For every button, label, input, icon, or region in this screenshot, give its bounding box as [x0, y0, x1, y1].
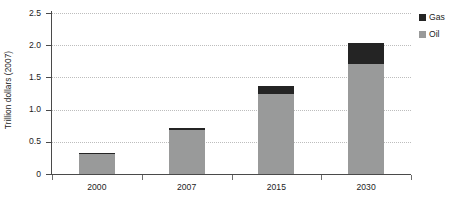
- y-tick-mark: [46, 142, 51, 143]
- legend-label: Gas: [429, 13, 445, 22]
- x-axis-line: [46, 174, 411, 175]
- y-axis-title: Trillion dollars (2007): [0, 0, 16, 180]
- y-tick-label: 0: [36, 170, 41, 179]
- chart-legend: GasOil: [419, 13, 454, 47]
- x-tick-mark: [142, 175, 143, 180]
- gridline: [52, 13, 411, 14]
- bar-segment-gas: [79, 153, 115, 154]
- y-tick-label: 2.0: [29, 41, 41, 50]
- bar-segment-oil: [348, 64, 384, 174]
- bar-segment-gas: [169, 128, 205, 130]
- y-tick-mark: [46, 13, 51, 14]
- x-tick-mark: [52, 175, 53, 180]
- bar-segment-gas: [348, 43, 384, 64]
- bar-2030: [348, 43, 384, 174]
- x-tick-label-2030: 2030: [336, 183, 396, 192]
- legend-swatch-oil-icon: [419, 31, 426, 38]
- bar-2007: [169, 128, 205, 174]
- x-tick-label-2007: 2007: [157, 183, 217, 192]
- y-axis-line: [51, 11, 52, 175]
- bar-segment-oil: [169, 130, 205, 174]
- x-tick-mark: [232, 175, 233, 180]
- y-tick-label: 1.5: [29, 73, 41, 82]
- legend-item-oil: Oil: [419, 30, 454, 47]
- x-tick-label-2015: 2015: [246, 183, 306, 192]
- bar-2015: [258, 86, 294, 174]
- legend-item-gas: Gas: [419, 13, 454, 30]
- plot-area: [52, 13, 411, 174]
- bar-segment-oil: [79, 154, 115, 174]
- y-tick-mark: [46, 45, 51, 46]
- bar-2000: [79, 153, 115, 174]
- x-tick-mark: [411, 175, 412, 180]
- legend-swatch-gas-icon: [419, 14, 426, 21]
- y-tick-mark: [46, 174, 51, 175]
- stacked-bar-chart: Trillion dollars (2007) 00.51.01.52.02.5…: [0, 0, 454, 216]
- legend-label: Oil: [429, 30, 440, 39]
- y-tick-label: 2.5: [29, 9, 41, 18]
- y-tick-mark: [46, 77, 51, 78]
- bar-segment-gas: [258, 86, 294, 93]
- x-tick-label-2000: 2000: [67, 183, 127, 192]
- y-tick-label: 0.5: [29, 137, 41, 146]
- y-axis-title-text: Trillion dollars (2007): [3, 51, 13, 129]
- y-tick-mark: [46, 110, 51, 111]
- bar-segment-oil: [258, 94, 294, 175]
- y-tick-label: 1.0: [29, 105, 41, 114]
- x-tick-mark: [321, 175, 322, 180]
